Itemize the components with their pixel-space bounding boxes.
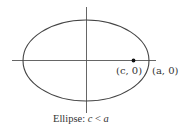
caption-a: a (104, 113, 109, 124)
caption-prefix: Ellipse: (53, 113, 88, 124)
focus-label: (c, 0) (116, 65, 142, 76)
focus-point (132, 59, 136, 63)
vertex-label: (a, 0) (152, 65, 179, 76)
ellipse-diagram: (c, 0) (a, 0) Ellipse: c < a (0, 0, 186, 128)
caption-op: < (92, 113, 103, 124)
caption: Ellipse: c < a (53, 113, 109, 124)
